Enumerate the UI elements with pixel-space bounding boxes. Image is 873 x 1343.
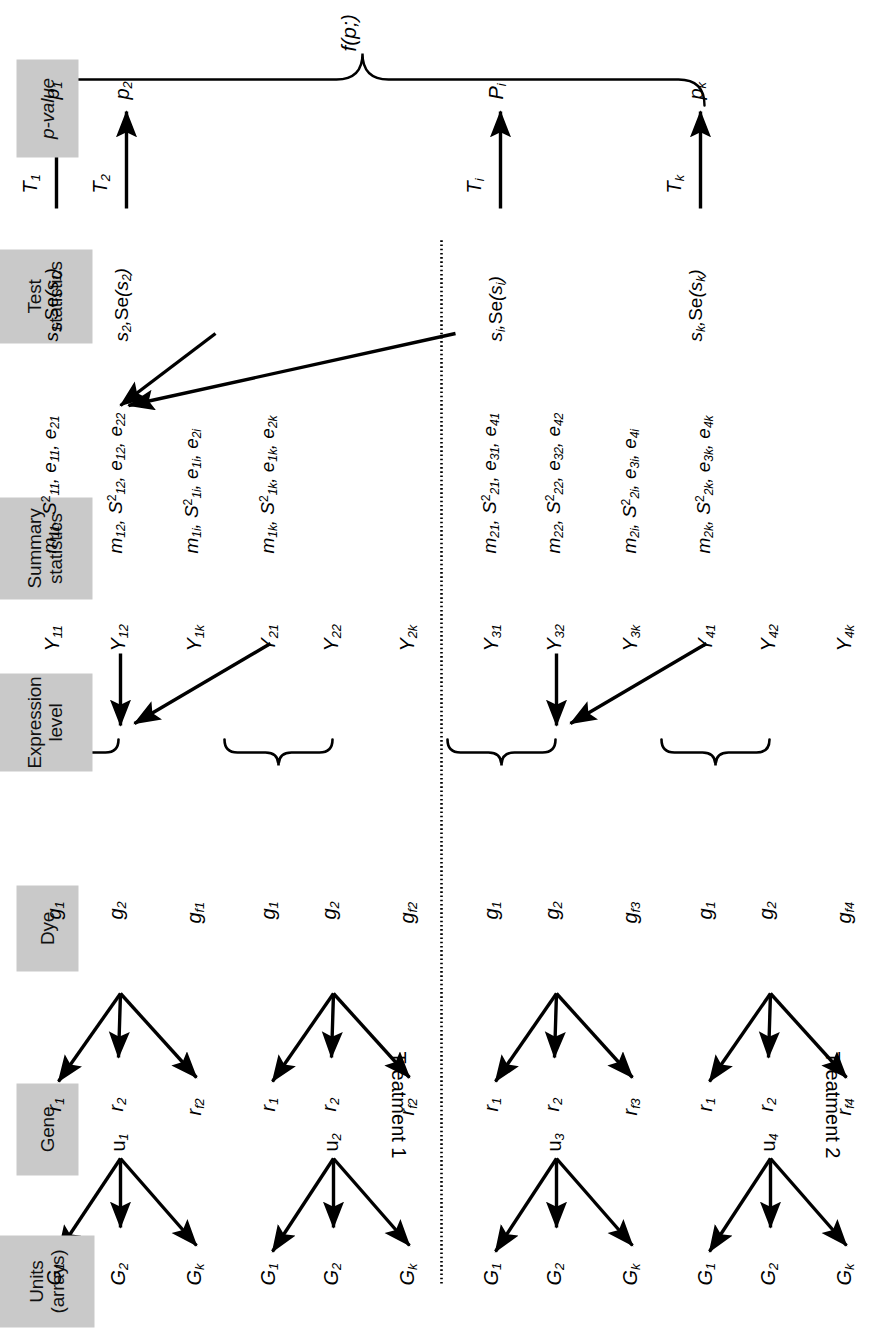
dye-red-label: r1 [42, 1097, 67, 1111]
dye-green-label: g1 [42, 901, 67, 919]
gene-label: G2 [542, 1263, 567, 1285]
summary-statistics-label: m21, S221, e31, e41 [478, 412, 502, 553]
dye-green-label: g1 [479, 901, 504, 919]
dye-green-label: gf3 [618, 902, 643, 923]
test-statistic-se-label: s1,Se(s1) [40, 268, 63, 341]
gene-label: G1 [479, 1263, 504, 1285]
expression-level-label: Y1k [182, 625, 207, 651]
dye-red-label: r2 [540, 1097, 565, 1111]
summary-statistics-label: m22, S222, e32, e42 [542, 412, 566, 553]
unit-u3: u3 [542, 1133, 567, 1151]
test-statistic-T-label: T2 [88, 174, 113, 193]
dye-green-label: gf2 [395, 902, 420, 923]
gene-label: G2 [106, 1263, 131, 1285]
gene-label: G1 [256, 1263, 281, 1285]
column-header-expression-level: Expression level [0, 673, 92, 771]
summary-statistics-label: m1k, S21k, e1k, e2k [256, 415, 280, 553]
dye-red-label: r1 [256, 1097, 281, 1111]
gene-label: G1 [42, 1263, 67, 1285]
summary-statistics-label: m11, S211, e11, e21 [38, 415, 62, 553]
column-header-gene: Gene [16, 1083, 78, 1175]
column-header-p-value: p-value [16, 59, 78, 157]
gene-label: Gk [832, 1263, 857, 1285]
dye-red-label: rf4 [832, 1098, 857, 1115]
dye-green-label: gf1 [182, 902, 207, 923]
p-value-density-formula: f(p;) [336, 14, 360, 51]
column-header-dye: Dye [16, 885, 78, 971]
gene-label: G2 [319, 1263, 344, 1285]
expression-level-label: Y31 [479, 624, 504, 651]
gene-label: G2 [756, 1263, 781, 1285]
p-value-label: p1 [40, 81, 65, 99]
expression-level-label: Y3k [618, 625, 643, 651]
dye-red-label: rf3 [618, 1098, 643, 1115]
gene-label: G1 [693, 1263, 718, 1285]
expression-level-label: Y21 [256, 624, 281, 651]
unit-u1: u1 [106, 1133, 131, 1151]
summary-statistics-label: m12, S212, e12, e22 [104, 412, 128, 553]
expression-level-label: Y2k [395, 625, 420, 651]
dye-green-label: g2 [754, 901, 779, 919]
dye-green-label: g1 [693, 901, 718, 919]
unit-u2: u2 [319, 1133, 344, 1151]
test-statistic-se-label: si,Se(si) [484, 276, 507, 341]
expression-level-label: Y42 [756, 624, 781, 651]
expression-level-label: Y22 [319, 624, 344, 651]
p-value-label: p2 [110, 81, 135, 99]
dye-red-label: r1 [479, 1097, 504, 1111]
dye-green-label: g2 [104, 901, 129, 919]
test-statistic-T-label: T1 [18, 174, 43, 193]
dye-red-label: r2 [104, 1097, 129, 1111]
expression-level-label: Y12 [106, 624, 131, 651]
figure-canvas: Units (arrays) Gene Dye Expression level… [0, 0, 873, 1343]
test-statistic-se-label: sk,Se(sk) [684, 269, 707, 341]
expression-level-label: Y11 [40, 625, 65, 651]
dye-red-label: rf2 [395, 1098, 420, 1115]
unit-u4: u4 [756, 1133, 781, 1151]
dye-red-label: r2 [317, 1097, 342, 1111]
gene-label: Gk [182, 1263, 207, 1285]
expression-level-label: Y41 [693, 624, 718, 651]
dye-green-label: g2 [317, 901, 342, 919]
p-value-label: Pi [484, 83, 509, 99]
expression-level-label: Y4k [832, 625, 857, 651]
summary-statistics-label: m2i, S22i, e3i, e4i [618, 429, 642, 553]
dye-green-label: g2 [540, 901, 565, 919]
test-statistic-se-label: s2,Se(s2) [110, 268, 133, 341]
dye-red-label: r1 [693, 1097, 718, 1111]
test-statistic-T-label: Ti [462, 178, 487, 193]
summary-statistics-label: m1i, S21i, e1i, e2i [180, 429, 204, 553]
dye-green-label: g1 [256, 901, 281, 919]
p-value-label: pk [684, 82, 709, 99]
dye-red-label: r2 [754, 1097, 779, 1111]
gene-label: Gk [395, 1263, 420, 1285]
expression-level-label: Y32 [542, 624, 567, 651]
summary-statistics-label: m2k, S22k, e3k, e4k [692, 415, 716, 553]
gene-label: Gk [618, 1263, 643, 1285]
dye-red-label: rf2 [182, 1098, 207, 1115]
dye-green-label: gf4 [832, 902, 857, 923]
test-statistic-T-label: Tk [662, 175, 687, 193]
